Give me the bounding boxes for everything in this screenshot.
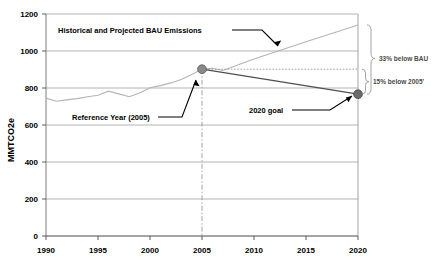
x-tick-label-2000: 2000	[141, 246, 159, 255]
2005-reduction-bracket-label: 15% below 2005'	[373, 78, 424, 85]
bau-reduction-bracket-label: 33% below BAU	[379, 55, 428, 62]
reference-year-annotation-label: Reference Year (2005)	[72, 113, 150, 122]
2005-reduction-bracket	[362, 69, 369, 94]
reference-year-marker[interactable]	[198, 65, 207, 74]
goal-marker[interactable]	[354, 90, 363, 99]
y-tick-label-0: 0	[34, 232, 39, 241]
x-tick-label-2005: 2005	[193, 246, 211, 255]
y-tick-label-200: 200	[25, 195, 39, 204]
y-tick-label-400: 400	[25, 158, 39, 167]
x-tick-label-1990: 1990	[37, 246, 55, 255]
x-axis-ticks	[46, 236, 358, 240]
goal-annotation-arrowhead	[346, 96, 352, 102]
goal-annotation-leader	[292, 96, 352, 110]
y-axis-title: MMTCO2e	[6, 118, 16, 162]
y-tick-label-1200: 1200	[20, 10, 38, 19]
goal-annotation-label: 2020 goal	[249, 106, 283, 115]
emissions-projection-chart: 1200 1000 800 600 400 200 0 MMTCO2e 1990…	[0, 0, 435, 278]
x-tick-label-2020: 2020	[349, 246, 367, 255]
bau-annotation-leader	[232, 30, 278, 46]
bau-annotation-label: Historical and Projected BAU Emissions	[58, 26, 202, 35]
bau-emissions-line	[46, 25, 358, 101]
goal-trajectory-line	[202, 69, 358, 94]
y-axis-ticks	[42, 14, 46, 236]
x-tick-label-2015: 2015	[297, 246, 315, 255]
x-tick-label-1995: 1995	[89, 246, 107, 255]
reference-year-annotation-leader	[158, 80, 196, 117]
y-tick-label-1000: 1000	[20, 47, 38, 56]
y-tick-label-600: 600	[25, 121, 39, 130]
y-tick-label-800: 800	[25, 84, 39, 93]
x-tick-label-2010: 2010	[245, 246, 263, 255]
chart-container: 1200 1000 800 600 400 200 0 MMTCO2e 1990…	[0, 0, 435, 278]
